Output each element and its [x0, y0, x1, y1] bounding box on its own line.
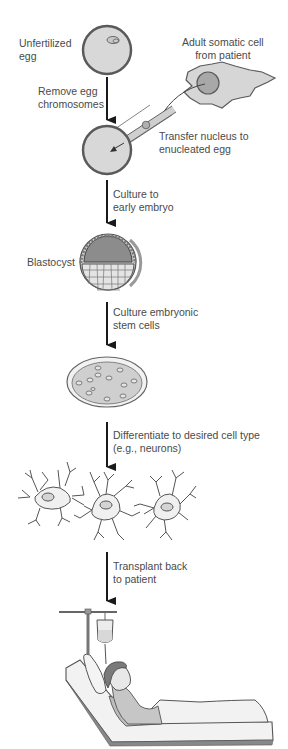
somatic-cell-icon [184, 62, 275, 108]
label-transplant: Transplant back to patient [113, 560, 187, 585]
neuron-3 [134, 470, 196, 540]
label-remove-chromosomes: Remove egg chromosomes [38, 85, 104, 110]
label-transfer-nucleus: Transfer nucleus to enucleated egg [159, 130, 249, 155]
neuron-2 [74, 472, 140, 540]
enucleated-egg-icon [83, 126, 131, 174]
diagram-canvas [0, 0, 288, 749]
label-differentiate: Differentiate to desired cell type (e.g.… [113, 429, 260, 454]
label-adult-somatic-cell: Adult somatic cell from patient [182, 36, 264, 61]
label-blastocyst: Blastocyst [27, 256, 75, 269]
neurons-icon [18, 462, 196, 540]
petri-dish-icon [67, 357, 147, 407]
blastocyst-icon [80, 234, 141, 290]
label-unfertilized-egg: Unfertilized egg [19, 37, 72, 62]
unfertilized-egg-icon [83, 26, 131, 74]
label-culture-stem-cells: Culture embryonic stem cells [113, 306, 198, 331]
label-culture-embryo: Culture to early embryo [113, 188, 174, 213]
neuron-1 [18, 462, 84, 526]
